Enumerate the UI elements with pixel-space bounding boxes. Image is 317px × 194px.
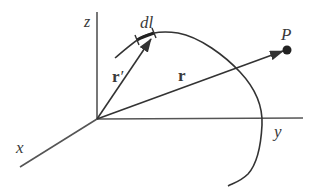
dl-label: dl bbox=[140, 14, 153, 31]
diagram-canvas bbox=[0, 0, 317, 194]
z-axis-label: z bbox=[84, 14, 90, 30]
y-axis-label: y bbox=[274, 123, 282, 140]
prime-mark: ′ bbox=[120, 67, 124, 86]
x-axis bbox=[20, 119, 97, 167]
x-axis-label: x bbox=[16, 139, 24, 156]
biot-savart-geometry-diagram: z dl r′ r P x y bbox=[0, 0, 317, 194]
point-p-dot bbox=[283, 46, 292, 55]
current-path-curve bbox=[115, 32, 262, 186]
r-vector bbox=[97, 51, 283, 119]
y-axis bbox=[97, 118, 303, 119]
r-prime-letter: r bbox=[112, 67, 120, 86]
r-prime-label: r′ bbox=[112, 68, 123, 85]
dl-element-segment bbox=[137, 33, 154, 40]
r-label: r bbox=[178, 67, 186, 84]
point-p-label: P bbox=[281, 26, 291, 43]
